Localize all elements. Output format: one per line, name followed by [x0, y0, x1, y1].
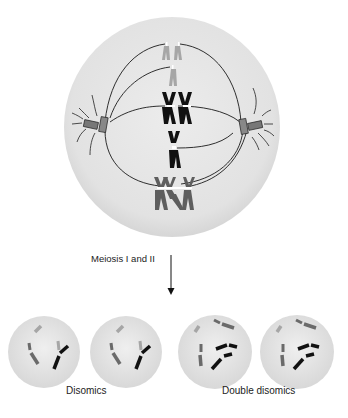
daughter-cell-disomic-1 [8, 316, 80, 388]
daughter-cell-membrane [260, 315, 334, 389]
daughter-cell-membrane [90, 316, 162, 388]
double-disomics-label: Double disomics [222, 385, 295, 396]
daughter-cell-membrane [178, 315, 252, 389]
daughter-cell-membrane [8, 316, 80, 388]
daughter-cell-double-disomic-1 [178, 315, 252, 389]
daughter-cell-double-disomic-2 [260, 315, 334, 389]
daughter-cell-disomic-2 [90, 316, 162, 388]
disomics-label: Disomics [66, 385, 107, 396]
arrow-head-icon [168, 288, 175, 295]
process-label: Meiosis I and II [91, 253, 155, 264]
parent-cell [64, 17, 280, 237]
diagram-canvas [0, 0, 348, 418]
process-arrow [168, 255, 175, 295]
